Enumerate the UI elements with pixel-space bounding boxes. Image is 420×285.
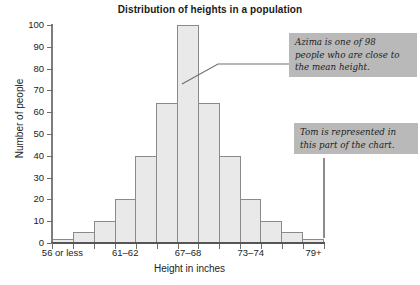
y-tick-mark — [47, 156, 53, 157]
x-tick-mark — [157, 244, 158, 249]
bar — [198, 103, 220, 243]
y-tick-label: 100 — [16, 19, 44, 30]
y-tick-label: 90 — [16, 41, 44, 52]
leader-line-azima — [180, 44, 295, 86]
y-tick-label: 80 — [16, 63, 44, 74]
annotation-tom-line-1: Tom is represented in — [300, 126, 413, 139]
x-tick-label: 56 or less — [42, 247, 83, 258]
bar — [260, 221, 282, 243]
x-tick-label: 67–68 — [175, 247, 201, 258]
x-tick-label: 79+ — [305, 247, 321, 258]
y-tick-label: 70 — [16, 84, 44, 95]
y-tick-mark — [47, 178, 53, 179]
bar — [240, 199, 262, 243]
y-tick-mark — [47, 25, 53, 26]
bar — [219, 156, 241, 243]
y-tick-mark — [47, 199, 53, 200]
x-tick-mark — [303, 244, 304, 249]
x-tick-mark — [94, 244, 95, 249]
y-tick-label: 0 — [16, 237, 44, 248]
annotation-tom-line-2: this part of the chart. — [300, 139, 413, 152]
annotation-azima-line-2: people who are close to — [295, 49, 412, 62]
bar — [156, 103, 178, 243]
x-tick-label: 61–62 — [112, 247, 138, 258]
y-tick-mark — [47, 90, 53, 91]
y-tick-label: 40 — [16, 150, 44, 161]
bar — [115, 199, 137, 243]
x-axis-line — [51, 242, 325, 244]
annotation-tom: Tom is represented in this part of the c… — [294, 123, 418, 154]
annotation-azima-line-3: the mean height. — [295, 61, 412, 74]
y-tick-mark — [47, 69, 53, 70]
x-tick-mark — [324, 244, 325, 249]
y-tick-label: 20 — [16, 193, 44, 204]
bar — [135, 156, 157, 243]
y-tick-label: 60 — [16, 106, 44, 117]
y-tick-mark — [47, 112, 53, 113]
bar — [94, 221, 116, 243]
y-tick-mark — [47, 47, 53, 48]
y-tick-label: 10 — [16, 215, 44, 226]
x-tick-label: 73–74 — [238, 247, 264, 258]
y-tick-mark — [47, 134, 53, 135]
y-tick-label: 50 — [16, 128, 44, 139]
x-tick-mark — [219, 244, 220, 249]
annotation-azima-line-1: Azima is one of 98 — [295, 36, 412, 49]
x-axis-title: Height in inches — [52, 263, 327, 274]
chart-figure: Distribution of heights in a population … — [0, 0, 420, 285]
annotation-azima: Azima is one of 98 people who are close … — [289, 33, 417, 77]
y-tick-mark — [47, 221, 53, 222]
x-tick-mark — [282, 244, 283, 249]
leader-line-tom — [323, 158, 325, 238]
chart-title: Distribution of heights in a population — [0, 4, 420, 15]
y-tick-label: 30 — [16, 172, 44, 183]
